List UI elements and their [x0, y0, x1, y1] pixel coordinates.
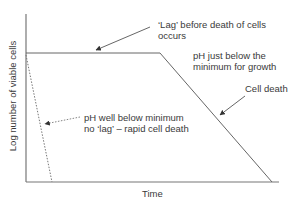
lag-annotation-line2: occurs — [158, 30, 186, 41]
ph-well-below-line1: pH well below minimum — [84, 112, 184, 123]
y-axis-label: Log number of viable cells — [7, 41, 18, 151]
ph-well-below-line2: no ‘lag’ – rapid cell death — [84, 123, 189, 134]
cell-death-arrow — [220, 96, 245, 115]
death-curve-diagram — [0, 0, 295, 206]
lag-arrow — [96, 27, 150, 50]
ph-just-below-line1: pH just below the — [193, 50, 266, 61]
rapid-death-arrow — [45, 117, 80, 124]
lag-annotation-line1: ‘Lag’ before death of cells — [158, 19, 266, 30]
ph-just-below-line2: minimum for growth — [193, 61, 276, 72]
x-axis-label: Time — [142, 188, 163, 199]
cell-death-label: Cell death — [245, 83, 288, 94]
rapid-death-curve — [26, 55, 52, 182]
